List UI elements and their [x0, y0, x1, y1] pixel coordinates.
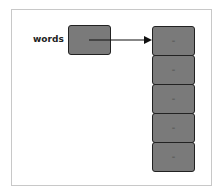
pointer-arrow-icon: [0, 0, 222, 194]
